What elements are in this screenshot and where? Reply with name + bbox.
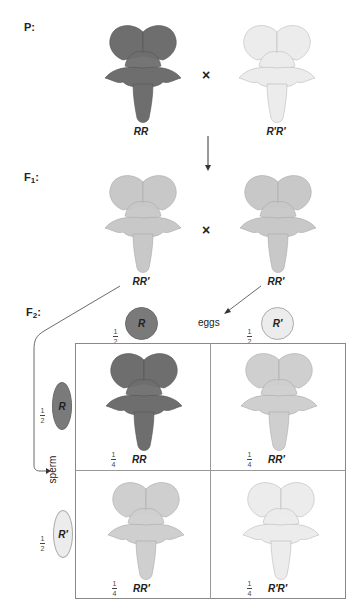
sperm-gamete-r: R [52, 382, 72, 430]
egg-fraction-r: 12 [113, 320, 118, 345]
punnett-divider-horizontal [75, 470, 346, 471]
sperm-fraction-r: 12 [40, 399, 45, 424]
flower-cell-rr [104, 350, 184, 452]
flower-cell-rr2-bottom [106, 479, 186, 581]
cell-label-rr2-top: 14 RR′ [247, 451, 285, 468]
cell-label-rr: 14 RR [111, 451, 146, 468]
egg-gamete-r2: R′ [261, 307, 294, 340]
eggs-label: eggs [198, 317, 220, 328]
flower-cell-rr2-top [239, 350, 319, 452]
punnett-divider-vertical [210, 343, 211, 599]
sperm-label: sperm [47, 456, 58, 484]
egg-fraction-r2: 12 [247, 320, 252, 345]
sperm-gamete-r2: R′ [53, 510, 73, 558]
flower-cell-r2r2 [241, 479, 321, 581]
egg-gamete-r: R [125, 307, 158, 340]
sperm-fraction-r2: 12 [40, 527, 45, 552]
cell-label-rr2-bottom: 14 RR′ [112, 580, 150, 597]
cell-label-r2r2: 14 R′R′ [247, 580, 287, 597]
